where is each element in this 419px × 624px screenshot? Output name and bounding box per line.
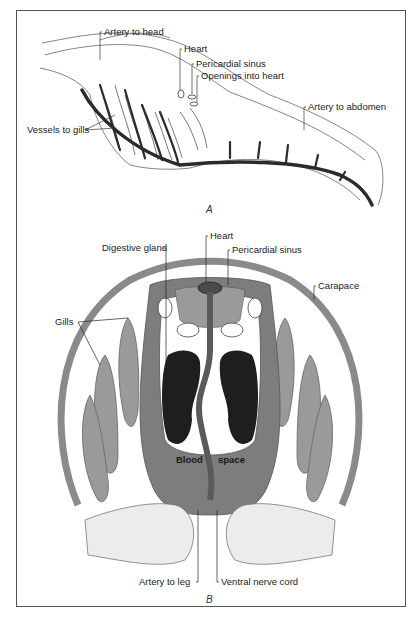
heart-a <box>178 90 198 106</box>
label-vessels-to-gills: Vessels to gills <box>27 125 89 135</box>
gill-filaments <box>100 85 207 160</box>
caption-a: A <box>206 204 213 215</box>
gills-right <box>274 318 332 502</box>
label-heart-b: Heart <box>210 231 233 241</box>
label-pericardial-sinus-b: Pericardial sinus <box>232 245 302 255</box>
caption-b: B <box>206 594 213 605</box>
label-ventral-nerve-cord: Ventral nerve cord <box>221 577 298 587</box>
label-space: space <box>218 455 245 465</box>
label-pericardial-sinus-a: Pericardial sinus <box>196 59 266 69</box>
label-artery-to-abdomen: Artery to abdomen <box>308 102 386 112</box>
label-digestive-gland: Digestive gland <box>102 243 167 253</box>
label-blood: Blood <box>176 455 203 465</box>
label-artery-to-leg: Artery to leg <box>139 577 190 587</box>
label-artery-to-head: Artery to head <box>104 27 164 37</box>
label-carapace: Carapace <box>318 281 359 291</box>
label-openings-into-heart: Openings into heart <box>201 71 284 81</box>
gills-left <box>82 318 138 502</box>
label-heart-a: Heart <box>184 44 207 54</box>
diagram-canvas <box>0 0 419 624</box>
label-gills: Gills <box>55 317 73 327</box>
